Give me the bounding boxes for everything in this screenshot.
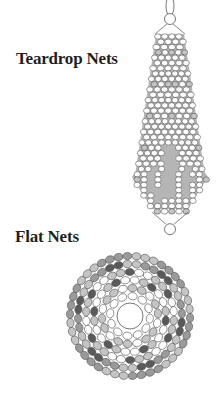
beadwork-illustrations (0, 0, 222, 399)
teardrop-net-illustration (132, 0, 210, 235)
flat-net-illustration (66, 252, 193, 380)
